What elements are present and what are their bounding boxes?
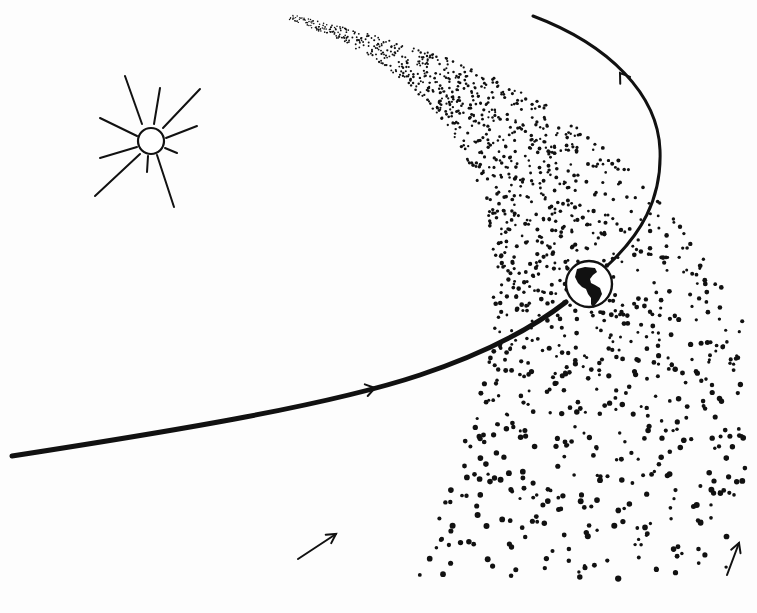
earth-icon: [566, 261, 612, 308]
sun-icon: [95, 76, 200, 207]
meteor-stream-diagram: [0, 0, 757, 613]
stream-direction-arrows: [298, 530, 744, 575]
illustration: [0, 0, 757, 613]
earth-orbit-upper: [533, 16, 660, 265]
meteoroid-stream: [289, 15, 747, 582]
orbit-direction-arrows: [365, 70, 630, 396]
